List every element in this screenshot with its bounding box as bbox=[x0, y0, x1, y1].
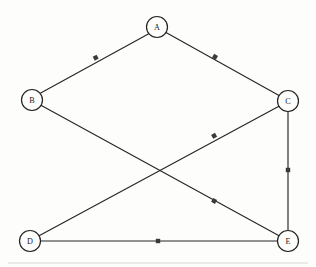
diagram-canvas: A B C D E bbox=[0, 0, 316, 267]
node-e[interactable]: E bbox=[278, 231, 299, 252]
node-a[interactable]: A bbox=[147, 17, 168, 38]
node-b[interactable]: B bbox=[22, 90, 43, 111]
node-e-label: E bbox=[285, 237, 290, 246]
edge-b-e bbox=[41, 106, 278, 236]
node-d[interactable]: D bbox=[20, 231, 41, 252]
edge-label-group bbox=[93, 54, 290, 243]
node-group: A B C D E bbox=[20, 17, 299, 252]
node-c[interactable]: C bbox=[278, 91, 299, 112]
node-c-label: C bbox=[285, 97, 291, 106]
edge-a-c bbox=[166, 33, 279, 96]
edge-a-b bbox=[41, 34, 149, 93]
edge-group bbox=[39, 33, 288, 242]
edge-label-d-e bbox=[156, 239, 160, 243]
edge-label-c-d bbox=[211, 133, 217, 139]
graph-diagram: A B C D E bbox=[0, 0, 316, 267]
edge-label-c-e bbox=[286, 168, 290, 172]
node-a-label: A bbox=[154, 23, 160, 32]
node-d-label: D bbox=[27, 237, 33, 246]
edge-label-a-b bbox=[93, 55, 99, 61]
node-b-label: B bbox=[29, 96, 35, 105]
